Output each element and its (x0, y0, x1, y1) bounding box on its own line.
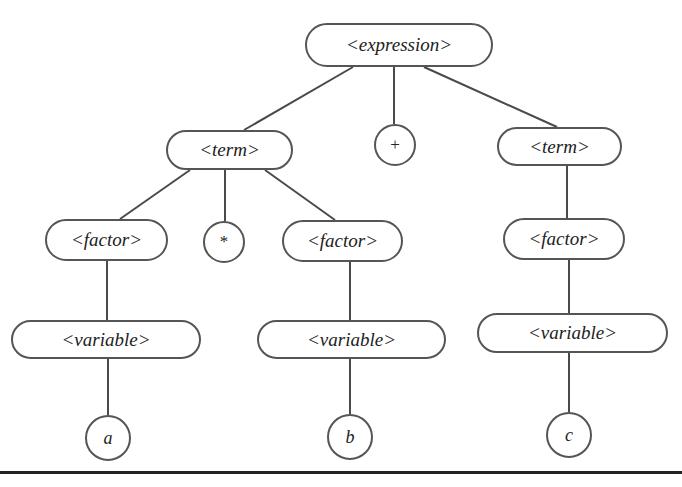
node-term-left: <term> (166, 130, 293, 170)
node-term-right: <term> (497, 127, 622, 166)
edge-expression-term_left (244, 67, 353, 130)
node-expression: <expression> (305, 23, 493, 67)
node-factor-middle: <factor> (282, 220, 403, 262)
node-label: <term> (529, 136, 589, 158)
node-label: b (346, 427, 355, 448)
node-variable-right: <variable> (477, 313, 668, 353)
edge-term_left-factor_mid (265, 170, 335, 220)
node-label: <term> (199, 139, 259, 161)
node-label: c (565, 425, 573, 446)
node-label: <factor> (307, 230, 378, 252)
node-label: <variable> (307, 329, 396, 351)
node-label: + (390, 135, 400, 155)
node-label: <factor> (71, 229, 142, 251)
node-factor-left: <factor> (45, 219, 168, 261)
node-variable-middle: <variable> (257, 320, 446, 359)
leaf-a: a (85, 415, 131, 461)
node-factor-right: <factor> (503, 218, 625, 260)
node-label: <variable> (528, 322, 617, 344)
leaf-c: c (546, 412, 592, 458)
node-variable-left: <variable> (11, 320, 201, 359)
node-label: <factor> (528, 228, 599, 250)
node-multiply-operator: * (203, 221, 245, 263)
leaf-b: b (327, 414, 373, 460)
edge-expression-term_right (424, 67, 557, 127)
node-label: <expression> (346, 34, 452, 56)
node-plus-operator: + (374, 124, 416, 166)
node-label: <variable> (62, 329, 151, 351)
bottom-rule-divider (0, 471, 682, 474)
node-label: * (220, 232, 229, 252)
edge-term_left-factor_left (120, 170, 190, 219)
parse-tree-diagram: <expression> <term> + <term> <factor> * … (0, 0, 682, 487)
node-label: a (104, 428, 113, 449)
